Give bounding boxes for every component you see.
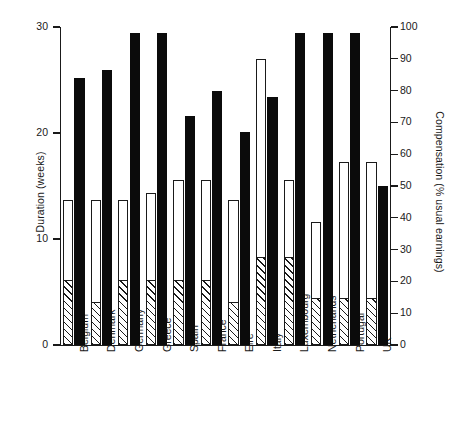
y-axis-right-tick [391,58,398,59]
y-axis-left-tick-label: 20 [8,126,48,138]
bar-duration-total [256,59,266,345]
y-axis-left-tick-label: 30 [8,20,48,32]
plot-area [60,27,391,345]
bar-compensation [240,132,250,345]
y-axis-right-tick-label: 60 [400,147,440,159]
bar-duration-initial [229,302,237,344]
y-axis-right-tick-label: 100 [400,20,440,32]
bar-group [256,27,278,345]
y-axis-right-tick-label: 90 [400,52,440,64]
bar-compensation [295,33,305,345]
bar-duration-total [339,162,349,345]
bar-compensation [157,33,167,345]
bar-compensation [102,70,112,345]
y-axis-right-tick [391,217,398,218]
y-axis-right-tick [391,122,398,123]
bar-duration-initial [257,257,265,344]
bar-duration-total [173,180,183,345]
bar-compensation [267,97,277,345]
bar-duration-total [63,200,73,345]
bar-group [146,27,168,345]
bar-duration-initial [92,302,100,344]
y-axis-right-tick [391,281,398,282]
chart-figure: Duration (weeks) Compensation (% usual e… [0,0,452,431]
y-axis-right-tick-label: 30 [400,243,440,255]
bar-compensation [323,33,333,345]
bar-group [284,27,306,345]
bar-duration-total [201,180,211,345]
bar-group [173,27,195,345]
bar-duration-total [228,200,238,345]
y-axis-right-tick-label: 40 [400,211,440,223]
y-axis-right-tick [391,154,398,155]
bar-group [63,27,85,345]
bar-group [201,27,223,345]
y-axis-right-tick [391,313,398,314]
bar-compensation [378,186,388,345]
bar-group [118,27,140,345]
y-axis-left-tick [53,26,60,27]
y-axis-right-tick [391,90,398,91]
bar-compensation [130,33,140,345]
bar-duration-initial [174,280,182,344]
y-axis-right-tick-label: 50 [400,179,440,191]
y-axis-right-tick-label: 20 [400,274,440,286]
bar-duration-total [118,200,128,345]
bar-duration-total [284,180,294,345]
y-axis-left-tick [53,238,60,239]
bar-duration-initial [312,298,320,344]
y-axis-left-tick-label: 10 [8,232,48,244]
bar-duration-initial [119,280,127,344]
y-axis-right-tick [391,185,398,186]
y-axis-right-tick-label: 0 [400,338,440,350]
bar-duration-initial [147,280,155,344]
y-axis-left-tick [53,132,60,133]
y-axis-left-tick [53,344,60,345]
bar-duration-total [91,200,101,345]
bar-duration-initial [64,280,72,344]
bar-group [91,27,113,345]
bar-group [366,27,388,345]
bar-group [311,27,333,345]
y-axis-right-tick-label: 80 [400,84,440,96]
y-axis-right-tick-label: 10 [400,306,440,318]
bar-group [228,27,250,345]
bar-duration-initial [367,298,375,344]
bar-duration-total [311,222,321,345]
bar-duration-total [146,193,156,345]
y-axis-right-tick [391,26,398,27]
y-axis-left-tick-label: 0 [8,338,48,350]
bar-duration-initial [340,298,348,344]
bar-group [339,27,361,345]
bar-compensation [185,116,195,345]
bar-compensation [212,91,222,345]
bar-compensation [74,78,84,345]
bar-duration-initial [202,280,210,344]
y-axis-right-tick [391,249,398,250]
bar-duration-total [366,162,376,345]
bar-compensation [350,33,360,345]
y-axis-right-tick-label: 70 [400,115,440,127]
bar-duration-initial [285,257,293,344]
